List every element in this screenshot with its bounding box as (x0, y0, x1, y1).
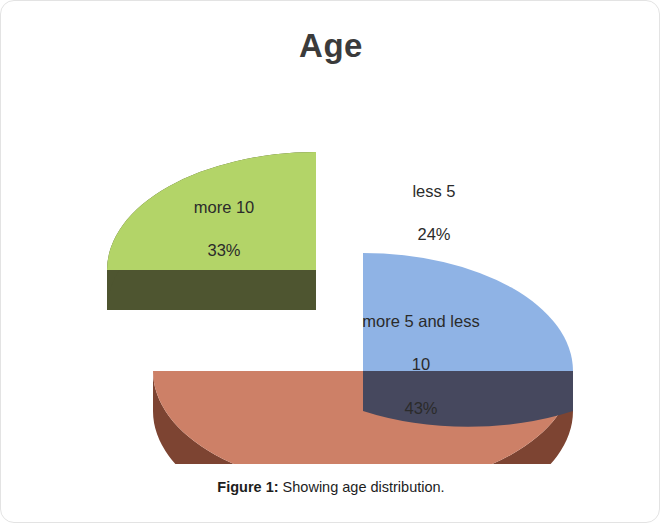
figure-caption-text: Showing age distribution. (279, 479, 445, 495)
pie-chart-svg (1, 109, 660, 464)
pie-slice-blue-top (363, 253, 573, 371)
figure-container: Age more 10 33% (0, 0, 660, 523)
figure-caption-label: Figure 1: (217, 479, 278, 495)
pie-slice-blue-side (363, 371, 573, 427)
pie-chart: more 10 33% less 5 24% more 5 and less 1… (1, 109, 660, 464)
pie-slice-green-top (107, 152, 316, 270)
pie-slice-green-side (107, 270, 316, 310)
figure-caption: Figure 1: Showing age distribution. (1, 479, 660, 495)
pie-slice-green-group (107, 152, 316, 310)
chart-title: Age (1, 27, 660, 65)
